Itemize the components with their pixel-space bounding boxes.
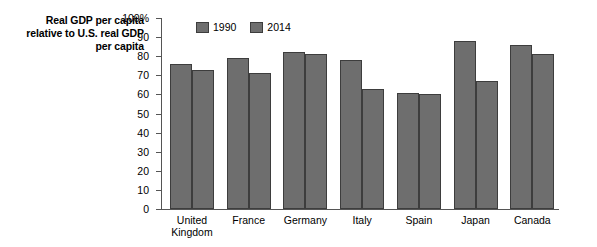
y-tick-20: 20 (156, 171, 161, 172)
y-tick-label-0: 0 (143, 204, 149, 215)
bar-united-kingdom-2014 (192, 70, 214, 209)
x-axis-line (161, 209, 559, 210)
x-axis-label-canada: Canada (482, 214, 582, 226)
y-tick-100: 100% (156, 18, 161, 19)
x-axis-label-line: Canada (482, 214, 582, 226)
bar-group (227, 18, 271, 209)
legend-label-2014: 2014 (267, 22, 290, 33)
bar-germany-2014 (305, 54, 327, 209)
bar-chart: Real GDP per capita relative to U.S. rea… (0, 0, 597, 247)
bar-italy-2014 (362, 89, 384, 209)
y-tick-80: 80 (156, 56, 161, 57)
bar-group (397, 18, 441, 209)
bar-group (340, 18, 384, 209)
y-axis-title-line-2: relative to U.S. real GDP (8, 27, 144, 40)
legend-swatch-1990 (196, 22, 209, 33)
legend-entry-1990: 1990 (196, 22, 236, 33)
y-axis-title-line-3: per capita (8, 40, 144, 53)
y-tick-0: 0 (156, 209, 161, 210)
y-tick-label-40: 40 (137, 127, 149, 138)
y-tick-label-10: 10 (137, 185, 149, 196)
legend-swatch-2014 (250, 22, 263, 33)
y-tick-50: 50 (156, 114, 161, 115)
bar-canada-2014 (532, 54, 554, 209)
legend-label-1990: 1990 (213, 22, 236, 33)
bar-canada-1990 (510, 45, 532, 209)
bar-united-kingdom-1990 (170, 64, 192, 209)
bar-group (454, 18, 498, 209)
y-tick-10: 10 (156, 190, 161, 191)
y-tick-40: 40 (156, 133, 161, 134)
bar-group (283, 18, 327, 209)
y-tick-label-50: 50 (137, 108, 149, 119)
y-tick-70: 70 (156, 75, 161, 76)
y-tick-label-20: 20 (137, 166, 149, 177)
x-axis-label-line: Kingdom (142, 226, 242, 238)
y-tick-label-80: 80 (137, 51, 149, 62)
bar-france-1990 (227, 58, 249, 209)
bar-spain-2014 (419, 94, 441, 209)
legend: 1990 2014 (196, 22, 291, 33)
bar-germany-1990 (283, 52, 305, 209)
bar-italy-1990 (340, 60, 362, 209)
y-tick-label-30: 30 (137, 146, 149, 157)
legend-entry-2014: 2014 (250, 22, 290, 33)
plot-area: 0102030405060708090100% (161, 18, 558, 209)
y-tick-label-90: 90 (137, 32, 149, 43)
y-tick-label-100: 100% (122, 13, 149, 24)
bar-japan-1990 (454, 41, 476, 209)
bar-japan-2014 (476, 81, 498, 209)
y-tick-30: 30 (156, 152, 161, 153)
bar-spain-1990 (397, 93, 419, 210)
bar-france-2014 (249, 73, 271, 209)
y-tick-90: 90 (156, 37, 161, 38)
y-tick-label-60: 60 (137, 89, 149, 100)
bar-group (170, 18, 214, 209)
bar-group (510, 18, 554, 209)
y-tick-60: 60 (156, 94, 161, 95)
y-tick-label-70: 70 (137, 70, 149, 81)
